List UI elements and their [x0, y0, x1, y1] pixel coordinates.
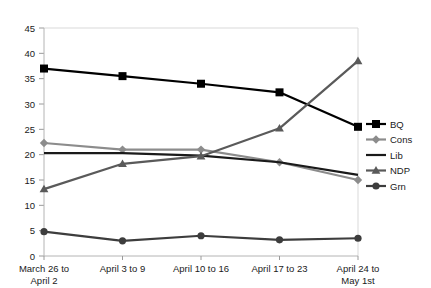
data-point-marker [372, 182, 379, 189]
chart-legend: BQConsLibNDPGrn [366, 119, 412, 192]
x-tick-label: April 17 to 23 [252, 263, 308, 274]
data-point-marker [119, 237, 126, 244]
legend-label: NDP [390, 165, 410, 176]
chart-canvas: 051015202530354045 March 26 toApril 2Apr… [0, 0, 431, 288]
legend-label: Grn [390, 181, 406, 192]
series-cons [40, 139, 362, 184]
data-point-marker [40, 228, 47, 235]
plot-frame [44, 28, 358, 256]
legend-item-ndp: NDP [366, 165, 410, 176]
y-axis-tick-labels: 051015202530354045 [24, 23, 35, 262]
legend-label: Cons [390, 134, 412, 145]
y-tick-label: 30 [24, 99, 35, 110]
data-point-marker [119, 72, 127, 80]
legend-item-grn: Grn [366, 181, 406, 192]
y-tick-label: 5 [30, 225, 35, 236]
y-tick-label: 35 [24, 73, 35, 84]
data-point-marker [40, 65, 48, 73]
x-tick-label: April 24 toMay 1st [337, 263, 380, 286]
data-point-marker [354, 123, 362, 131]
x-tick-label: April 10 to 16 [173, 263, 229, 274]
y-tick-label: 20 [24, 149, 35, 160]
series-layer [40, 57, 363, 245]
data-point-marker [40, 139, 48, 147]
data-point-marker [372, 135, 380, 143]
y-tick-label: 15 [24, 175, 35, 186]
y-tick-label: 0 [30, 251, 35, 262]
data-point-marker [354, 57, 363, 65]
legend-item-cons: Cons [366, 134, 412, 145]
data-point-marker [276, 236, 283, 243]
y-tick-label: 45 [24, 23, 35, 34]
data-point-marker [354, 235, 361, 242]
data-point-marker [276, 88, 284, 96]
line-chart: 051015202530354045 March 26 toApril 2Apr… [0, 0, 431, 288]
x-axis-tickmarks [44, 256, 358, 260]
x-axis-tick-labels: March 26 toApril 2April 3 to 9April 10 t… [19, 263, 379, 286]
data-point-marker [197, 232, 204, 239]
data-point-marker [372, 120, 380, 128]
legend-item-bq: BQ [366, 119, 404, 130]
series-ndp [40, 57, 363, 193]
series-line [44, 69, 358, 127]
x-tick-label: March 26 toApril 2 [19, 263, 69, 286]
y-tick-label: 40 [24, 48, 35, 59]
y-tick-label: 25 [24, 124, 35, 135]
y-tick-label: 10 [24, 200, 35, 211]
series-grn [40, 228, 361, 244]
legend-label: BQ [390, 119, 404, 130]
legend-label: Lib [390, 150, 403, 161]
data-point-marker [197, 80, 205, 88]
x-tick-label: April 3 to 9 [100, 263, 145, 274]
data-point-marker [354, 176, 362, 184]
legend-item-lib: Lib [366, 150, 403, 161]
